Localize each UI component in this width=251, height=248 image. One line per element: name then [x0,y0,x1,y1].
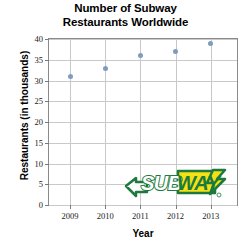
chart-title-line-1: Number of Subway [0,2,251,16]
y-tick-mark [45,101,49,102]
y-gridline [49,143,237,144]
y-tick-label: 30 [35,76,44,86]
logo-text-sub: SUB [141,172,182,194]
x-tick-label: 2011 [132,211,149,221]
y-tick-label: 5 [39,179,43,189]
chart-title-line-2: Restaurants Worldwide [0,16,251,30]
x-tick-mark [176,205,177,209]
chart-figure: Number of Subway Restaurants Worldwide R… [0,0,251,248]
y-tick-label: 35 [35,55,44,65]
y-tick-mark [45,205,49,206]
y-tick-mark [45,122,49,123]
logo-text-way: WAY [177,172,222,194]
y-axis-label: Restaurants (in thousands) [19,36,30,196]
x-tick-label: 2010 [97,211,114,221]
subway-logo: SUB WAY [124,163,228,201]
y-tick-label: 25 [35,96,44,106]
data-point [138,53,143,58]
y-tick-mark [45,143,49,144]
y-tick-label: 20 [35,117,44,127]
y-tick-label: 15 [35,138,44,148]
subway-logo-graphic: SUB WAY [124,163,228,201]
x-tick-mark [70,205,71,209]
x-tick-label: 2012 [167,211,184,221]
x-tick-mark [140,205,141,209]
x-gridline [70,39,71,205]
x-tick-mark [105,205,106,209]
data-point [68,74,73,79]
x-tick-label: 2009 [62,211,79,221]
x-tick-mark [211,205,212,209]
y-tick-mark [45,39,49,40]
data-point [173,49,178,54]
y-tick-mark [45,164,49,165]
y-gridline [49,81,237,82]
x-gridline [105,39,106,205]
y-tick-mark [45,60,49,61]
data-point [103,66,108,71]
y-gridline [49,205,237,206]
x-tick-label: 2013 [202,211,219,221]
y-tick-label: 40 [35,34,44,44]
y-tick-mark [45,184,49,185]
chart-title: Number of Subway Restaurants Worldwide [0,2,251,29]
y-gridline [49,39,237,40]
y-tick-label: 10 [35,159,44,169]
y-gridline [49,122,237,123]
y-tick-mark [45,81,49,82]
y-gridline [49,101,237,102]
y-gridline [49,60,237,61]
y-tick-label: 0 [39,200,43,210]
data-point [208,41,213,46]
x-axis-label: Year [48,228,238,239]
